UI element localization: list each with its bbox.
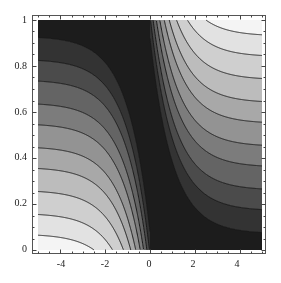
y-tick-label: 0.2 xyxy=(5,198,27,208)
x-tick-label: 2 xyxy=(183,259,203,269)
x-tick-label: 4 xyxy=(227,259,247,269)
y-tick-label: 0.8 xyxy=(5,61,27,71)
x-tick-label: -2 xyxy=(95,259,115,269)
y-tick-label: 0.4 xyxy=(5,152,27,162)
y-tick-label: 0.6 xyxy=(5,107,27,117)
x-tick-label: -4 xyxy=(51,259,71,269)
y-tick-label: 1 xyxy=(5,15,27,25)
contour-plot xyxy=(0,0,281,283)
x-tick-label: 0 xyxy=(139,259,159,269)
y-tick-label: 0 xyxy=(5,244,27,254)
